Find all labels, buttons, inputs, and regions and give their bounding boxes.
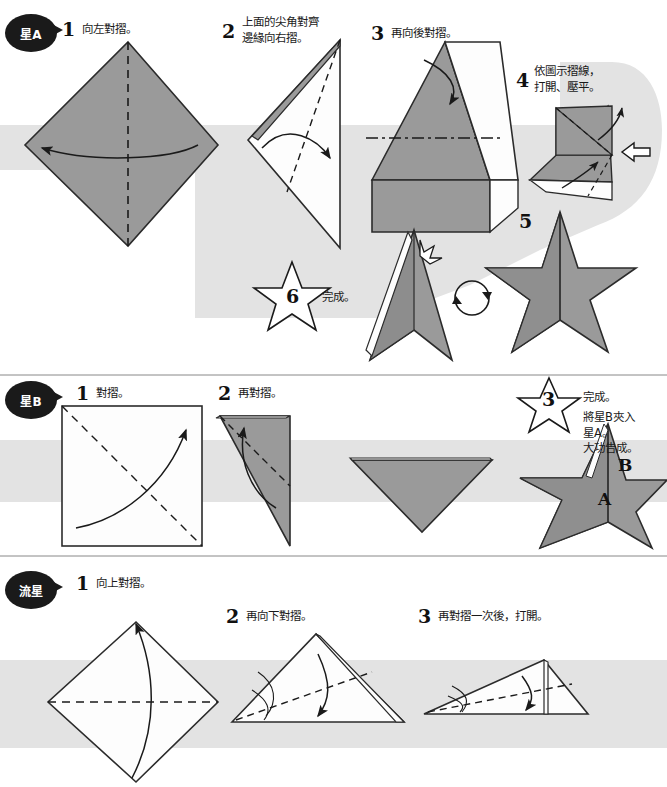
step-number-s1: 1	[76, 572, 89, 594]
assembly-note: 將星B夾入 星A。 大功告成。	[583, 410, 638, 457]
step-number-b3: 3	[542, 388, 555, 410]
step-number-a2: 2	[222, 20, 235, 42]
step-text-b2: 再對摺。	[238, 386, 282, 402]
step-text-a4: 依圖示摺線， 打開、壓平。	[534, 64, 600, 95]
step-text-b1: 對摺。	[96, 386, 129, 402]
step-number-b1: 1	[76, 382, 89, 404]
section-badge-star-b: 星B	[5, 381, 57, 419]
step-number-s2: 2	[226, 605, 239, 627]
step-number-a4: 4	[516, 69, 529, 91]
step-number-a1: 1	[62, 18, 75, 40]
section-badge-star-a: 星A	[5, 14, 57, 52]
step-text-b3: 完成。	[583, 390, 616, 406]
step-text-a3: 再向後對摺。	[391, 26, 457, 42]
step-number-a5: 5	[519, 210, 532, 232]
step-number-b2: 2	[218, 382, 231, 404]
step-number-a3: 3	[371, 22, 384, 44]
step-text-a6: 完成。	[322, 290, 355, 306]
section-badge-shooting-star: 流星	[5, 571, 57, 609]
face-label-a: A	[598, 489, 611, 509]
origami-instruction-sheet: 星A 1 向左對摺。 2 上面的尖角對齊 邊緣向右摺。 3 再向後對摺。 4 依…	[0, 0, 667, 787]
step-text-s1: 向上對摺。	[96, 576, 151, 592]
step-text-s2: 再向下對摺。	[246, 609, 312, 625]
step-number-a6: 6	[286, 285, 299, 307]
step-text-s3: 再對摺一次後，打開。	[438, 609, 548, 625]
step-text-a1: 向左對摺。	[82, 22, 137, 38]
figure-s-step1	[48, 622, 218, 782]
step-number-s3: 3	[418, 605, 431, 627]
figure-b-step1	[62, 406, 202, 546]
figure-a-step1	[25, 42, 218, 246]
step-text-a2: 上面的尖角對齊 邊緣向右摺。	[242, 15, 319, 46]
face-label-b: B	[618, 455, 632, 475]
